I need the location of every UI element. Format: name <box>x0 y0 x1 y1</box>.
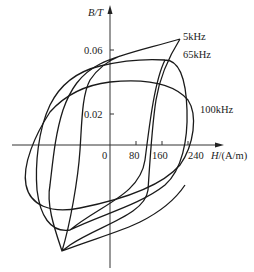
y-tick-label-002: 0.02 <box>84 109 102 120</box>
x-tick-label-240: 240 <box>188 150 204 161</box>
y-tick-label-006: 0.06 <box>84 45 102 56</box>
series-label-65khz: 65kHz <box>183 49 211 60</box>
x-axis-arrow <box>215 143 224 148</box>
x-axis-unit: /(A/m) <box>219 150 248 162</box>
y-axis-label: B/T <box>88 7 104 18</box>
y-axis-label-text: B/T <box>88 7 104 18</box>
x-tick-label-0: 0 <box>102 150 107 161</box>
series-label-100khz: 100kHz <box>200 104 234 115</box>
hysteresis-chart: B/T 0.06 0.02 0 80 160 240 H/(A/m) 5kHz … <box>0 0 254 272</box>
y-axis-arrow <box>108 5 113 14</box>
x-tick-label-160: 160 <box>152 150 168 161</box>
series-label-5khz: 5kHz <box>183 31 206 42</box>
x-tick-label-80: 80 <box>129 150 140 161</box>
x-axis-label: H/(A/m) <box>210 150 248 162</box>
